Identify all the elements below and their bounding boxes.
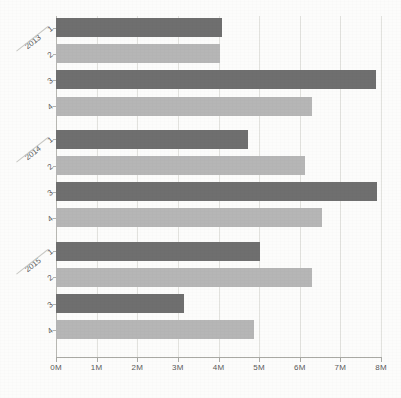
x-tick-8M: [381, 358, 382, 362]
bar-2013-q3: [56, 70, 376, 89]
bar-2013-q1: [56, 18, 222, 37]
x-tick-label-3M: 3M: [172, 363, 184, 372]
x-tick-7M: [340, 358, 341, 362]
x-tick-5M: [259, 358, 260, 362]
x-tick-label-7M: 7M: [335, 363, 347, 372]
x-tick-6M: [300, 358, 301, 362]
x-tick-1M: [97, 358, 98, 362]
x-tick-label-6M: 6M: [294, 363, 306, 372]
bar-2013-q2: [56, 44, 220, 63]
bar-chart: 0M1M2M3M4M5M6M7M8M 120132341201423412015…: [0, 0, 401, 398]
x-tick-4M: [219, 358, 220, 362]
bar-2015-q1: [56, 242, 260, 261]
x-tick-3M: [178, 358, 179, 362]
x-tick-label-1M: 1M: [91, 363, 103, 372]
bar-2015-q2: [56, 268, 312, 287]
bar-2013-q4: [56, 97, 312, 116]
bar-2014-q1: [56, 130, 248, 149]
x-tick-label-0M: 0M: [50, 363, 62, 372]
bar-2014-q4: [56, 208, 322, 227]
x-tick-label-2M: 2M: [131, 363, 143, 372]
bar-2015-q4: [56, 320, 254, 339]
x-tick-label-5M: 5M: [253, 363, 265, 372]
x-tick-2M: [137, 358, 138, 362]
bar-2014-q3: [56, 182, 377, 201]
bar-2015-q3: [56, 294, 184, 313]
bar-2014-q2: [56, 156, 305, 175]
x-tick-label-8M: 8M: [375, 363, 387, 372]
x-tick-label-4M: 4M: [213, 363, 225, 372]
plot-area: [56, 16, 381, 357]
gridline-8M: [381, 16, 382, 357]
x-tick-0M: [56, 358, 57, 362]
